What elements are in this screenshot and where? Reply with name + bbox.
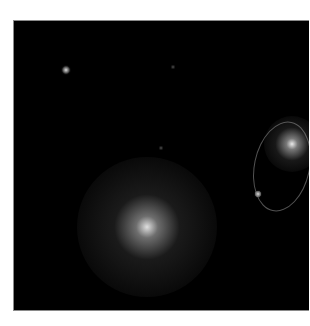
- image-description: Astronomical grayscale image showing a l…: [0, 0, 1, 1]
- faint-source-middle: [158, 145, 164, 151]
- astronomical-image-frame: [13, 20, 309, 311]
- diffuse-central-source: [77, 157, 217, 297]
- faint-source-top: [170, 64, 176, 70]
- point-source-upper-left: [61, 65, 71, 75]
- region-ellipse-marker: [245, 116, 309, 217]
